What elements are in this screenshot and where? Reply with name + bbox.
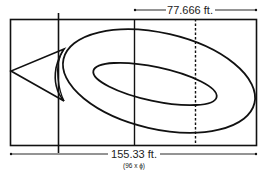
top-dimension-right-endpoint — [255, 9, 257, 11]
top-dimension-label: 77.666 ft. — [167, 4, 213, 16]
bottom-dimension-sublabel: (96 x ϕ) — [123, 162, 145, 170]
outer-ellipse — [53, 12, 266, 150]
inner-ellipse — [90, 54, 220, 113]
boundary-rectangle — [11, 20, 257, 146]
bottom-dimension-left-endpoint — [10, 153, 12, 155]
arrowhead-shape — [11, 49, 64, 101]
bottom-dimension-right-endpoint — [255, 153, 257, 155]
bottom-dimension-label: 155.33 ft. — [111, 148, 157, 160]
top-dimension-left-endpoint — [134, 9, 136, 11]
field-diagram: 77.666 ft. 155.33 ft. (96 x ϕ) — [0, 0, 266, 178]
